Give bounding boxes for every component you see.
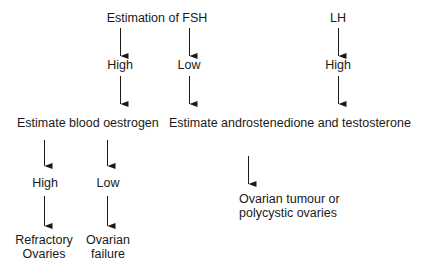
tumour-line2: polycystic ovaries xyxy=(239,206,340,220)
failure-line2: failure xyxy=(86,247,130,261)
node-fsh-high: High xyxy=(107,58,133,72)
node-oestrogen-high: High xyxy=(32,176,58,190)
refractory-line2: Ovaries xyxy=(15,247,73,261)
node-oestrogen-low: Low xyxy=(97,176,120,190)
tumour-line1: Ovarian tumour or xyxy=(239,192,340,206)
node-lh-high: High xyxy=(325,58,351,72)
refractory-line1: Refractory xyxy=(15,233,73,247)
arrows-layer xyxy=(0,0,432,271)
node-lh: LH xyxy=(330,11,346,25)
node-fsh-estimation: Estimation of FSH xyxy=(107,11,208,25)
node-tumour-or-pco: Ovarian tumour or polycystic ovaries xyxy=(239,192,340,220)
node-estimate-oestrogen: Estimate blood oestrogen xyxy=(17,116,159,130)
node-estimate-androgens: Estimate androstenedione and testosteron… xyxy=(169,116,411,130)
failure-line1: Ovarian xyxy=(86,233,130,247)
node-ovarian-failure: Ovarian failure xyxy=(86,233,130,261)
node-refractory-ovaries: Refractory Ovaries xyxy=(15,233,73,261)
node-fsh-low: Low xyxy=(178,58,201,72)
